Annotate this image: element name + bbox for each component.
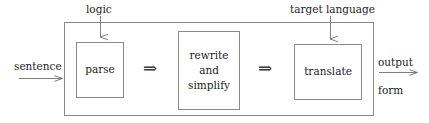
pipeline-diagram: parse rewrite and simplify translate ⇒ ⇒… (0, 0, 429, 123)
output-label-bottom: form (378, 85, 403, 96)
stage-label-parse-line-1: parse (85, 62, 115, 77)
stage-label-rewrite-line-1: rewrite (189, 48, 228, 63)
stage-label-parse: parse (76, 42, 124, 98)
output-label-top: output (378, 57, 413, 68)
annotation-label-target-language: target language (290, 4, 375, 15)
input-label: sentence (14, 61, 62, 72)
stage-label-rewrite-line-2: and (199, 63, 219, 78)
stage-label-rewrite-line-3: simplify (188, 78, 230, 93)
stage-label-translate: translate (294, 44, 362, 100)
annotation-label-logic: logic (86, 4, 112, 15)
stage-label-translate-line-1: translate (304, 64, 352, 79)
connector-rewrite-to-translate-icon: ⇒ (258, 60, 272, 77)
connector-parse-to-rewrite-icon: ⇒ (143, 60, 157, 77)
stage-label-rewrite-and-simplify: rewrite and simplify (178, 31, 240, 110)
